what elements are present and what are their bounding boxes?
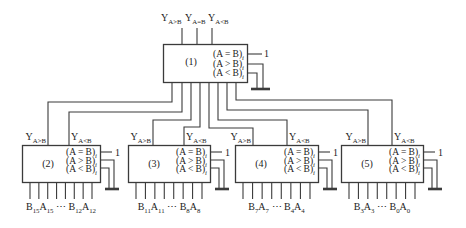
comparator-3-input-a-lt-b: (A < B)i — [155, 164, 207, 176]
logic-high-label: 1 — [225, 147, 230, 159]
logic-high-label: 1 — [333, 147, 338, 159]
ground-tie-wire — [210, 168, 219, 189]
comparator-3-output-y-a-gt-b: YA>B — [119, 131, 151, 144]
comparator-3-bits-label: B11A11 ⋯ B8A8 — [116, 201, 222, 214]
comparator-2-input-a-lt-b: (A < B)i — [45, 164, 97, 176]
comparator-2-output-y-a-gt-b: YA>B — [14, 131, 46, 144]
comparator-5-output-y-a-gt-b: YA>B — [334, 131, 366, 144]
comparator-4-bits-label: B7A7 ⋯ B4A4 — [223, 201, 330, 214]
logic-high-label: 1 — [115, 147, 120, 159]
ground-tie-wire — [423, 168, 432, 189]
output-label-y-a-gt-b: YA>B — [161, 12, 182, 25]
comparator-5-input-a-lt-b: (A < B)i — [368, 164, 420, 176]
comparator-5-bits-label: B3A3 ⋯ B0A0 — [329, 201, 435, 214]
comparator-4-input-a-lt-b: (A < B)i — [263, 164, 315, 176]
cascade-wire — [236, 82, 392, 145]
ground-tie-wire — [100, 168, 109, 189]
logic-high-label: 1 — [264, 48, 269, 60]
wiring-layer — [0, 0, 466, 228]
ground-tie-wire — [423, 160, 437, 189]
output-label-y-a-eq-b: YA=B — [185, 12, 206, 25]
ground-tie-wire — [247, 73, 257, 89]
comparator-4-output-y-a-gt-b: YA>B — [219, 131, 251, 144]
ground-tie-wire — [318, 168, 327, 189]
comparator-3-output-y-a-lt-b: YA<B — [186, 131, 207, 144]
output-label-y-a-lt-b: YA<B — [208, 12, 229, 25]
comparator-5-output-y-a-lt-b: YA<B — [394, 131, 415, 144]
comparator-4-output-y-a-lt-b: YA<B — [289, 131, 310, 144]
logic-high-label: 1 — [438, 147, 443, 159]
comparator-2-output-y-a-lt-b: YA<B — [71, 131, 92, 144]
ground-tie-wire — [247, 64, 263, 89]
comparator-cascade-diagram: YA>B YA=B YA<B (1) (A = B)i (A > B)i (A … — [0, 0, 466, 228]
comparator-1-input-a-lt-b: (A < B)i — [190, 68, 244, 80]
ground-tie-wire — [318, 160, 332, 189]
comparator-2-bits-label: B15A15 ⋯ B12A12 — [10, 201, 112, 214]
ground-tie-wire — [210, 160, 224, 189]
ground-tie-wire — [100, 160, 114, 189]
